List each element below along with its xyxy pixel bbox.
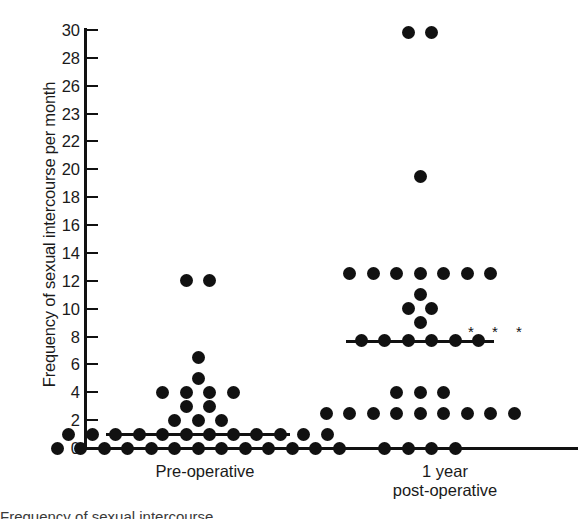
median-line: [106, 433, 290, 436]
data-point: [98, 442, 111, 455]
data-point: [168, 414, 181, 427]
data-point: [414, 407, 427, 420]
data-point: [321, 428, 334, 441]
data-point: [192, 414, 205, 427]
y-axis-tick: [87, 252, 98, 254]
y-axis-tick-label: 6: [36, 356, 80, 373]
data-point: [192, 351, 205, 364]
y-axis-tick: [87, 113, 98, 115]
data-point: [402, 442, 415, 455]
data-point: [390, 407, 403, 420]
data-point: [180, 400, 193, 413]
y-axis-tick: [87, 29, 98, 31]
data-point: [203, 274, 216, 287]
data-point: [343, 267, 356, 280]
data-point: [390, 267, 403, 280]
data-point: [51, 442, 64, 455]
data-point: [262, 442, 275, 455]
y-axis-tick-label: 26: [36, 78, 80, 95]
data-point: [402, 26, 415, 39]
y-axis-tick-labels: 302826232220181614121086420: [24, 0, 80, 460]
data-point: [367, 267, 380, 280]
x-axis-label-line: post-operative: [350, 481, 540, 500]
data-point: [227, 386, 240, 399]
y-axis-tick-label: 20: [36, 161, 80, 178]
x-axis-line: [84, 447, 578, 450]
y-axis-tick: [87, 140, 98, 142]
data-point: [168, 442, 181, 455]
y-axis-tick-label: 30: [36, 22, 80, 39]
data-point: [449, 442, 462, 455]
y-axis-tick: [87, 224, 98, 226]
data-point: [425, 26, 438, 39]
data-point: [215, 442, 228, 455]
y-axis-tick: [87, 419, 98, 421]
data-point: [121, 442, 134, 455]
y-axis-tick-label: 14: [36, 245, 80, 262]
y-axis-line: [84, 28, 87, 450]
data-point: [145, 442, 158, 455]
data-point: [320, 407, 333, 420]
data-point: [484, 267, 497, 280]
y-axis-tick: [87, 308, 98, 310]
data-point: [86, 428, 99, 441]
y-axis-tick-label: 28: [36, 50, 80, 67]
x-axis-label-line: Pre-operative: [105, 462, 305, 481]
y-axis-tick: [87, 168, 98, 170]
data-point: [425, 442, 438, 455]
data-point: [62, 428, 75, 441]
data-point: [286, 442, 299, 455]
y-axis-tick: [87, 57, 98, 59]
data-point: [425, 302, 438, 315]
data-point: [180, 274, 193, 287]
data-point: [461, 407, 474, 420]
data-point: [437, 407, 450, 420]
data-point: [203, 400, 216, 413]
data-point: [461, 267, 474, 280]
data-point: [156, 386, 169, 399]
y-axis-tick: [87, 280, 98, 282]
data-point: [203, 386, 216, 399]
y-axis-tick-label: 12: [36, 273, 80, 290]
data-point: [508, 407, 521, 420]
data-point: [414, 316, 427, 329]
data-point: [378, 442, 391, 455]
data-point: [297, 428, 310, 441]
y-axis-tick-label: 23: [36, 106, 80, 123]
data-point: [309, 442, 322, 455]
y-axis-tick-label: 22: [36, 133, 80, 150]
y-axis-tick: [87, 85, 98, 87]
figure-caption: Frequency of sexual intercourse: [0, 508, 581, 519]
data-point: [437, 267, 450, 280]
data-point: [367, 407, 380, 420]
x-axis-label-line: 1 year: [350, 462, 540, 481]
data-point: [180, 386, 193, 399]
y-axis-tick-label: 16: [36, 217, 80, 234]
data-point: [239, 442, 252, 455]
y-axis-tick: [87, 196, 98, 198]
data-point: [414, 170, 427, 183]
y-axis-tick-label: 4: [36, 384, 80, 401]
data-point: [437, 386, 450, 399]
y-axis-tick: [87, 391, 98, 393]
median-line: [346, 340, 494, 343]
x-axis-label-post-operative: 1 yearpost-operative: [350, 462, 540, 500]
y-axis-tick: [87, 336, 98, 338]
data-point: [414, 386, 427, 399]
data-point: [414, 288, 427, 301]
data-point: [333, 442, 346, 455]
data-point: [484, 407, 497, 420]
y-axis-tick-label: 2: [36, 412, 80, 429]
data-point: [390, 386, 403, 399]
data-point: [215, 414, 228, 427]
y-axis-tick-label: 8: [36, 329, 80, 346]
data-point: [192, 372, 205, 385]
data-point: [192, 442, 205, 455]
x-axis-label-pre-operative: Pre-operative: [105, 462, 305, 481]
data-point: [402, 302, 415, 315]
y-axis-tick-label: 18: [36, 189, 80, 206]
data-point: [74, 442, 87, 455]
significance-stars: * * *: [468, 324, 529, 339]
y-axis-tick: [87, 363, 98, 365]
data-point: [343, 407, 356, 420]
